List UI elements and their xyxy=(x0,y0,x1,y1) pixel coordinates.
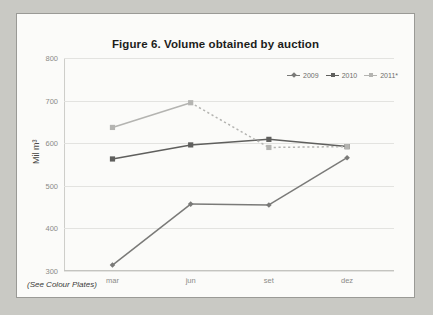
series-line-2011* xyxy=(112,103,190,128)
x-tick-label: set xyxy=(264,276,274,285)
series-line-2011* xyxy=(269,147,347,148)
data-point-2010 xyxy=(188,142,193,147)
figure-caption: (See Colour Plates) xyxy=(27,280,97,289)
series-line-2009 xyxy=(269,158,347,205)
data-point-2011* xyxy=(344,144,349,149)
figure-frame: Figure 6. Volume obtained by auction Mil… xyxy=(16,13,415,298)
page-background: Figure 6. Volume obtained by auction Mil… xyxy=(0,0,433,315)
x-tick-label: mar xyxy=(106,276,119,285)
plot-area: 800700600500400300 marjunsetdez xyxy=(64,58,394,271)
gridline xyxy=(64,271,394,272)
series-plot xyxy=(64,58,394,271)
x-tick-label: jun xyxy=(186,276,196,285)
y-tick-label: 500 xyxy=(45,181,58,190)
data-point-2010 xyxy=(266,137,271,142)
chart-card: Figure 6. Volume obtained by auction Mil… xyxy=(17,14,414,297)
data-point-2011* xyxy=(188,100,193,105)
series-line-2010 xyxy=(112,145,190,159)
series-line-2009 xyxy=(191,204,269,205)
y-tick-label: 600 xyxy=(45,139,58,148)
data-point-2011* xyxy=(110,125,115,130)
series-line-2010 xyxy=(191,139,269,145)
y-tick-label: 300 xyxy=(45,267,58,276)
data-point-2010 xyxy=(110,156,115,161)
chart-title: Figure 6. Volume obtained by auction xyxy=(17,38,414,50)
data-point-2011* xyxy=(266,145,271,150)
y-axis-title: Mil m³ xyxy=(31,140,41,165)
series-line-2010 xyxy=(269,139,347,146)
y-tick-label: 700 xyxy=(45,96,58,105)
y-tick-label: 400 xyxy=(45,224,58,233)
x-tick-label: dez xyxy=(341,276,353,285)
series-line-2009 xyxy=(112,204,190,265)
y-tick-label: 800 xyxy=(45,54,58,63)
